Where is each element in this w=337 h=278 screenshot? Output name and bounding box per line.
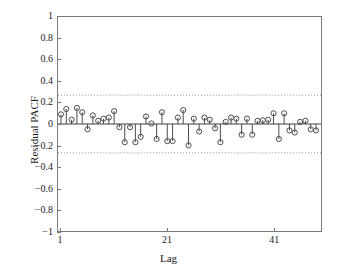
y-axis-tick-mark <box>57 59 61 60</box>
y-axis-tick-mark <box>57 81 61 82</box>
y-axis-tick-label: 0.6 <box>41 54 54 64</box>
y-axis-tick-label: 0.4 <box>41 76 54 86</box>
y-axis-tick-mark <box>57 210 61 211</box>
y-axis-tick-label: −0.6 <box>35 184 53 194</box>
y-axis-tick-mark <box>57 38 61 39</box>
y-axis-tick-label: 0.8 <box>41 33 54 43</box>
y-axis-tick-label: 0.2 <box>41 97 54 107</box>
x-axis-title: Lag <box>0 252 337 264</box>
x-axis-tick-mark <box>274 228 275 232</box>
plot-area <box>57 16 322 232</box>
x-axis-tick-label: 41 <box>269 234 279 245</box>
y-axis-tick-mark <box>57 16 61 17</box>
y-axis-tick-mark <box>57 124 61 125</box>
x-axis-tick-label: 1 <box>58 234 63 245</box>
y-axis-tick-mark <box>57 189 61 190</box>
y-axis-tick-mark <box>57 102 61 103</box>
x-axis-tick-mark <box>60 228 61 232</box>
x-axis-tick-mark <box>167 228 168 232</box>
pacf-chart-figure: Residual PACF 10.80.60.40.20−0.2−0.4−0.6… <box>0 0 337 278</box>
y-axis-tick-label: 0 <box>48 119 53 129</box>
x-axis-tick-label: 21 <box>162 234 172 245</box>
y-axis-tick-label: 1 <box>48 11 53 21</box>
y-axis-tick-label: −0.4 <box>35 162 53 172</box>
y-axis-tick-label: −0.2 <box>35 141 53 151</box>
stem-plot-svg <box>58 17 321 231</box>
y-axis-tick-mark <box>57 167 61 168</box>
y-axis-tick-mark <box>57 146 61 147</box>
y-axis-tick-mark <box>57 232 61 233</box>
x-axis-tick-labels: 12141 <box>0 234 337 250</box>
y-axis-tick-label: −0.8 <box>35 205 53 215</box>
